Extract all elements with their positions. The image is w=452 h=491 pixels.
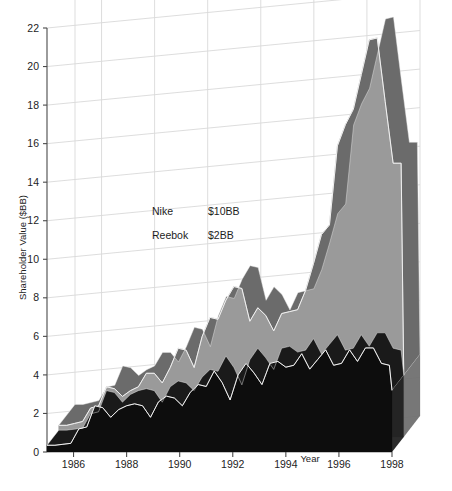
x-axis-tick-label: 1994 [274, 458, 298, 470]
y-axis-tick-label: 14 [27, 176, 39, 188]
x-axis-title-group: Year [300, 453, 319, 464]
legend-label-nike: Nike [152, 205, 173, 217]
y-axis-tick-label: 4 [33, 369, 39, 381]
y-axis-tick-label: 6 [33, 330, 39, 342]
y-axis-tick-label: 2 [33, 407, 39, 419]
shareholder-value-3d-area-chart: 0246810121416182022 19861988199019921994… [0, 0, 452, 491]
y-axis-tick-label: 16 [27, 137, 39, 149]
y-axis-tick-label: 22 [27, 22, 39, 34]
y-axis-tick-label: 8 [33, 291, 39, 303]
x-axis-tick-label: 1986 [62, 458, 86, 470]
x-axis-title: Year [300, 453, 319, 464]
y-axis-tick-label: 20 [27, 60, 39, 72]
x-axis-tick-label: 1996 [327, 458, 351, 470]
y-axis-tick-label: 0 [33, 446, 39, 458]
x-axis-tick-label: 1992 [221, 458, 245, 470]
x-axis-tick-label: 1988 [115, 458, 139, 470]
y-axis-tick-label: 12 [27, 214, 39, 226]
chart-container: 0246810121416182022 19861988199019921994… [0, 0, 452, 491]
x-axis-tick-label: 1990 [168, 458, 192, 470]
legend-value-reebok: $2BB [208, 229, 234, 241]
y-axis-tick-label: 10 [27, 253, 39, 265]
x-axis-tick-label: 1998 [380, 458, 404, 470]
legend-label-reebok: Reebok [152, 229, 189, 241]
legend-value-nike: $10BB [208, 205, 240, 217]
y-axis-tick-label: 18 [27, 99, 39, 111]
y-axis-title-group: Shareholder Value ($BB) [17, 195, 28, 300]
y-axis-title: Shareholder Value ($BB) [17, 195, 28, 300]
